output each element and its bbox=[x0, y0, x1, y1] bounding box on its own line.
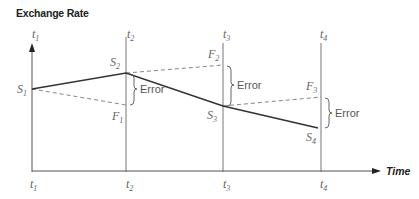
s2-label: S2 bbox=[110, 55, 120, 71]
t2-top-label: t2 bbox=[127, 27, 134, 43]
t3-top-label: t3 bbox=[223, 27, 230, 43]
error-label-2: Error bbox=[237, 79, 262, 91]
f3-label: F3 bbox=[305, 79, 317, 95]
t1-top-label: t1 bbox=[32, 27, 39, 43]
exchange-rate-diagram: Error Error Error t1 t2 t3 t4 t1 t2 t3 t… bbox=[0, 0, 419, 199]
forward-line-1 bbox=[32, 89, 126, 105]
forward-line-2 bbox=[126, 65, 223, 73]
s3-label: S3 bbox=[207, 108, 217, 124]
s4-label: S4 bbox=[306, 130, 316, 146]
y-axis-arrow-icon bbox=[29, 43, 35, 52]
error-brace-2 bbox=[227, 66, 234, 106]
f2-label: F2 bbox=[207, 47, 219, 63]
f1-label: F1 bbox=[111, 109, 123, 125]
error-label-3: Error bbox=[335, 107, 360, 119]
x-axis-arrow-icon bbox=[372, 168, 381, 174]
error-label-1: Error bbox=[140, 83, 165, 95]
forward-line-3 bbox=[223, 97, 321, 106]
t1-bottom-label: t1 bbox=[30, 177, 37, 193]
error-brace-3 bbox=[325, 98, 332, 128]
t3-bottom-label: t3 bbox=[223, 177, 230, 193]
x-axis-label: Time bbox=[386, 165, 410, 177]
t4-bottom-label: t4 bbox=[320, 177, 327, 193]
t2-bottom-label: t2 bbox=[126, 177, 133, 193]
t4-top-label: t4 bbox=[320, 27, 327, 43]
s1-label: S1 bbox=[17, 82, 27, 98]
spot-rate-line bbox=[32, 73, 318, 128]
error-brace-1 bbox=[130, 74, 137, 105]
